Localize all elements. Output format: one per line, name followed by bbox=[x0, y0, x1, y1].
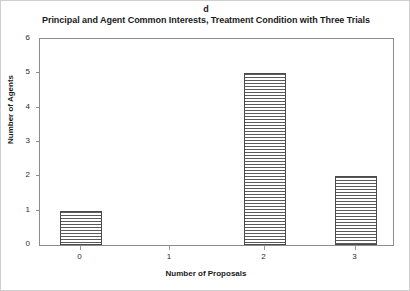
x-tick-label-2: 2 bbox=[249, 252, 279, 261]
y-tick-label-6: 6 bbox=[2, 34, 30, 42]
x-tick-mark-2 bbox=[264, 246, 265, 250]
y-tick-label-5: 5 bbox=[2, 68, 30, 76]
y-tick-label-1: 1 bbox=[2, 206, 30, 214]
x-tick-label-1: 1 bbox=[154, 252, 184, 261]
bar-3 bbox=[335, 176, 377, 245]
x-axis-title: Number of Proposals bbox=[1, 269, 410, 278]
y-tick-label-2: 2 bbox=[2, 171, 30, 179]
y-tick-label-4: 4 bbox=[2, 103, 30, 111]
bar-2 bbox=[244, 73, 286, 245]
bar-0 bbox=[60, 211, 102, 245]
x-tick-label-3: 3 bbox=[340, 252, 370, 261]
plot-frame bbox=[39, 38, 394, 246]
panel-label: d bbox=[1, 4, 410, 14]
x-tick-mark-3 bbox=[355, 246, 356, 250]
plot-area bbox=[40, 39, 393, 245]
x-tick-mark-0 bbox=[80, 246, 81, 250]
x-axis-tick-marks bbox=[39, 246, 394, 251]
x-axis-tick-labels: 0 1 2 3 bbox=[39, 252, 394, 264]
chart-title: Principal and Agent Common Interests, Tr… bbox=[1, 15, 410, 26]
y-tick-label-3: 3 bbox=[2, 137, 30, 145]
x-tick-mark-1 bbox=[169, 246, 170, 250]
x-tick-label-0: 0 bbox=[65, 252, 95, 261]
y-axis-tick-labels: 0 1 2 3 4 5 6 bbox=[1, 38, 35, 246]
y-tick-label-0: 0 bbox=[2, 240, 30, 248]
figure-container: d Principal and Agent Common Interests, … bbox=[0, 0, 410, 291]
